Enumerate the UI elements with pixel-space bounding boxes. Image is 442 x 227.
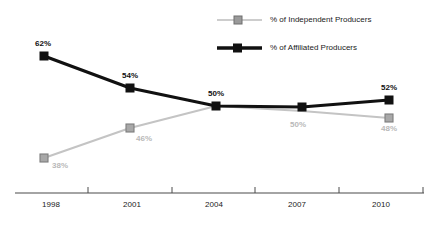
- data-label-affiliated-2001: 54%: [122, 71, 138, 80]
- legend-label-affiliated: % of Affiliated Producers: [270, 43, 357, 52]
- data-label-independent-2007: 50%: [290, 120, 306, 129]
- x-tick-label-2007: 2007: [288, 200, 306, 209]
- x-tick-label-1998: 1998: [42, 200, 60, 209]
- chart-plot-area: [0, 0, 442, 227]
- legend-swatch-independent: [217, 16, 262, 24]
- x-tick-label-2004: 2004: [205, 200, 223, 209]
- data-label-independent-2010: 48%: [381, 124, 397, 133]
- series-markers-independent: [40, 114, 393, 162]
- series-line-affiliated: [44, 56, 389, 107]
- legend-label-independent: % of Independent Producers: [270, 15, 371, 24]
- data-label-affiliated-2010: 52%: [381, 83, 397, 92]
- series-line-independent: [44, 106, 389, 158]
- x-tick-label-2010: 2010: [372, 200, 390, 209]
- legend-swatch-affiliated: [217, 44, 262, 53]
- x-axis-ticks: [88, 187, 423, 193]
- data-label-affiliated-1998: 62%: [35, 39, 51, 48]
- x-tick-label-2001: 2001: [123, 200, 141, 209]
- line-chart: % of Independent Producers % of Affiliat…: [0, 0, 442, 227]
- data-label-independent-2001: 46%: [136, 134, 152, 143]
- data-label-affiliated-2004: 50%: [208, 89, 224, 98]
- data-label-independent-1998: 38%: [52, 161, 68, 170]
